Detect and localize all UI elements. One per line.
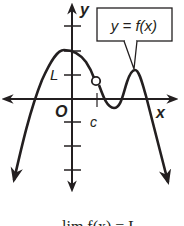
callout-pointer <box>124 41 137 69</box>
curve-label-callout: y = f(x) <box>97 8 172 69</box>
L-label: L <box>50 66 58 83</box>
function-curve-right <box>99 70 168 182</box>
open-circle-hole <box>92 77 100 85</box>
origin-label: O <box>55 103 68 120</box>
limit-caption: lim f(x) = L <box>62 218 138 226</box>
curve-label: y = f(x) <box>110 17 157 34</box>
y-axis-label: y <box>79 1 90 18</box>
limit-graph: y = f(x) y x O L c lim f(x) = L <box>0 0 184 226</box>
c-label: c <box>90 114 97 130</box>
x-axis-label: x <box>155 104 166 121</box>
